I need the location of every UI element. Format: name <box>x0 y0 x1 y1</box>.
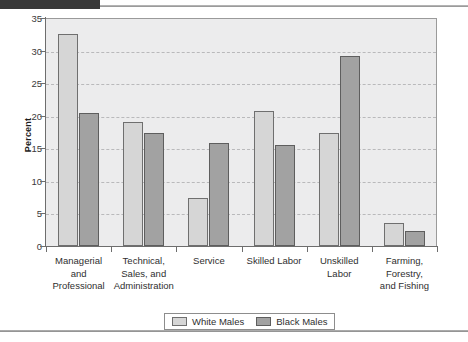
x-axis-category-label-line: Unskilled <box>303 255 376 268</box>
x-axis-category-label: Service <box>172 255 245 268</box>
footer-divider-rule <box>0 330 468 332</box>
x-axis-category-label-line: Labor <box>303 268 376 281</box>
bar-white-males <box>384 223 404 246</box>
bar-group <box>254 19 295 246</box>
bar-black-males <box>144 133 164 246</box>
y-axis-tick-mark <box>40 83 46 84</box>
x-axis-category-label: UnskilledLabor <box>303 255 376 280</box>
x-axis-category-label-line: Administration <box>107 280 180 293</box>
y-axis-tick-labels: 05101520253035 <box>18 18 42 246</box>
bar-group <box>58 19 99 246</box>
x-axis-category-label: Technical,Sales, andAdministration <box>107 255 180 293</box>
x-axis-tick-mark <box>372 247 373 252</box>
y-axis-tick-mark <box>40 181 46 182</box>
y-axis-tick-mark <box>40 213 46 214</box>
x-axis-category-label: Farming,Forestry,and Fishing <box>368 255 441 293</box>
bar-white-males <box>123 122 143 246</box>
x-axis-category-label-line: and Fishing <box>368 280 441 293</box>
gridline <box>46 117 436 118</box>
gridline <box>46 149 436 150</box>
x-axis-category-label-line: Sales, and <box>107 268 180 281</box>
header-dark-block <box>0 0 100 9</box>
bar-chart-figure: Percent 05101520253035 ManagerialandProf… <box>0 12 468 328</box>
chart-legend: White MalesBlack Males <box>164 313 335 330</box>
x-axis-category-label-line: Forestry, <box>368 268 441 281</box>
y-axis-tick-mark <box>40 51 46 52</box>
x-axis-category-label-line: and <box>42 268 115 281</box>
gridline <box>46 84 436 85</box>
x-axis-category-labels: ManagerialandProfessionalTechnical,Sales… <box>46 255 437 303</box>
x-axis-category-label-line: Professional <box>42 280 115 293</box>
x-axis-tick-mark <box>46 247 47 252</box>
x-axis-category-label-line: Service <box>172 255 245 268</box>
y-axis-tick-mark <box>40 148 46 149</box>
legend-entry-black-males: Black Males <box>256 316 327 327</box>
bar-group <box>188 19 229 246</box>
x-axis-category-label-line: Technical, <box>107 255 180 268</box>
legend-entry-white-males: White Males <box>172 316 244 327</box>
x-axis-tick-mark <box>307 247 308 252</box>
x-axis-category-label-line: Skilled Labor <box>238 255 311 268</box>
legend-label: Black Males <box>276 316 327 327</box>
y-axis-tick-mark <box>40 116 46 117</box>
bar-black-males <box>340 56 360 246</box>
bar-white-males <box>58 34 78 246</box>
gridline <box>46 182 436 183</box>
x-axis-tick-mark <box>176 247 177 252</box>
bar-group <box>123 19 164 246</box>
header-divider-rule <box>100 5 468 7</box>
plot-area <box>46 18 437 246</box>
bar-white-males <box>319 133 339 246</box>
bar-white-males <box>254 111 274 246</box>
bar-black-males <box>405 231 425 246</box>
x-axis-category-label: Skilled Labor <box>238 255 311 268</box>
bar-group <box>319 19 360 246</box>
bar-black-males <box>79 113 99 246</box>
y-axis-tick-mark <box>40 18 46 19</box>
x-axis-category-label: ManagerialandProfessional <box>42 255 115 293</box>
legend-label: White Males <box>192 316 244 327</box>
x-axis-tick-mark <box>242 247 243 252</box>
gridline <box>46 52 436 53</box>
x-axis-tick-mark <box>111 247 112 252</box>
x-axis-category-label-line: Managerial <box>42 255 115 268</box>
bar-white-males <box>188 198 208 246</box>
bar-black-males <box>209 143 229 246</box>
bar-black-males <box>275 145 295 246</box>
x-axis-tick-mark <box>437 247 438 252</box>
x-axis-category-label-line: Farming, <box>368 255 441 268</box>
bar-group <box>384 19 425 246</box>
gridline <box>46 214 436 215</box>
legend-swatch-icon <box>172 317 187 326</box>
legend-swatch-icon <box>256 317 271 326</box>
